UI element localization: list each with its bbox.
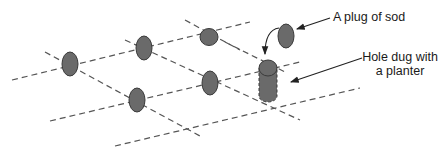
sod-plug	[202, 71, 218, 95]
sod-plug	[200, 29, 218, 46]
sod-plug	[62, 52, 78, 76]
hole-label-line2: a planter	[362, 64, 438, 78]
sod-plug	[129, 88, 145, 112]
planter-hole	[259, 60, 277, 102]
hole-label: Hole dug with a planter	[362, 50, 438, 78]
dashed-grid	[12, 20, 360, 146]
hole-label-arrow	[291, 58, 362, 82]
hole-label-line1: Hole dug with	[362, 50, 438, 64]
sod-plug	[136, 36, 152, 60]
sod-plugs	[62, 29, 218, 113]
plug-label-arrow	[297, 18, 330, 29]
hole-top	[259, 60, 277, 76]
plug-label: A plug of sod	[333, 10, 405, 24]
plug-move-arrow	[265, 28, 279, 54]
raised-sod-plug	[278, 24, 294, 48]
